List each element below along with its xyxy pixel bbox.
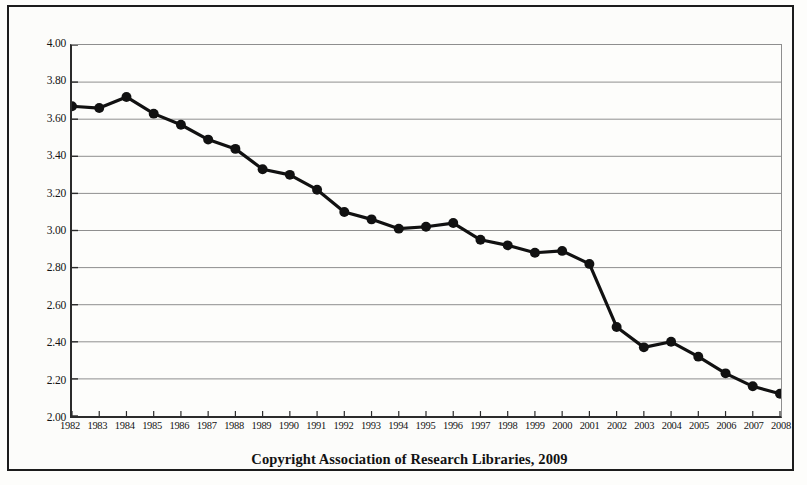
y-axis-tick-label: 2.80 (22, 263, 66, 275)
y-axis-tick-label: 4.00 (22, 38, 66, 50)
x-axis-tick-label: 1989 (252, 421, 272, 432)
x-axis-tick-label: 1982 (60, 421, 80, 432)
x-axis-tick-label: 2004 (662, 421, 682, 432)
y-axis-tick-label: 3.80 (22, 76, 66, 88)
data-point (312, 185, 322, 195)
data-point (367, 214, 377, 224)
data-point (693, 352, 703, 362)
plot-wrapper: 4.003.803.603.403.203.002.802.602.402.20… (21, 17, 798, 437)
data-point (584, 259, 594, 269)
data-point (230, 144, 240, 154)
x-axis-tick-label: 1984 (115, 421, 135, 432)
data-point (612, 322, 622, 332)
x-axis-tick-label: 1994 (388, 421, 408, 432)
plot-area (70, 44, 782, 418)
x-axis-tick-label: 1995 (416, 421, 436, 432)
x-axis-tick-label: 1983 (87, 421, 107, 432)
figure-container: 4.003.803.603.403.203.002.802.602.402.20… (0, 0, 807, 485)
x-axis-tick-label: 1993 (361, 421, 381, 432)
data-point (503, 240, 513, 250)
y-axis-tick-label: 2.60 (22, 300, 66, 312)
data-point (203, 135, 213, 145)
y-axis-tick-label: 2.40 (22, 337, 66, 349)
chart-caption: Copyright Association of Research Librar… (21, 451, 798, 468)
y-axis-tick-label: 3.20 (22, 188, 66, 200)
data-point (775, 389, 781, 399)
x-axis-tick-label: 2002 (607, 421, 627, 432)
data-point (421, 222, 431, 232)
y-axis-tick-labels: 4.003.803.603.403.203.002.802.602.402.20… (21, 44, 66, 418)
x-axis-tick-label: 1991 (306, 421, 326, 432)
x-axis-tick-label: 2006 (716, 421, 736, 432)
data-point (475, 235, 485, 245)
data-point (94, 103, 104, 113)
data-point (721, 368, 731, 378)
x-axis-tick-label: 2008 (771, 421, 791, 432)
y-axis-tick-label: 3.40 (22, 150, 66, 162)
x-axis-tick-label: 2007 (744, 421, 764, 432)
x-axis-tick-marks (72, 411, 780, 416)
x-axis-tick-label: 2001 (580, 421, 600, 432)
y-axis-tick-label: 3.60 (22, 113, 66, 125)
data-line (72, 97, 780, 394)
data-point (149, 109, 159, 119)
data-point (258, 164, 268, 174)
x-axis-tick-label: 1988 (224, 421, 244, 432)
x-axis-tick-label: 1997 (470, 421, 490, 432)
y-axis-tick-label: 3.00 (22, 225, 66, 237)
x-axis-tick-label: 1998 (498, 421, 518, 432)
data-point (176, 120, 186, 130)
data-point (666, 337, 676, 347)
data-point (72, 101, 77, 111)
data-point (339, 207, 349, 217)
data-point (285, 170, 295, 180)
data-point (394, 224, 404, 234)
data-point (557, 246, 567, 256)
data-point (448, 218, 458, 228)
x-axis-tick-label: 1985 (142, 421, 162, 432)
data-point-markers (72, 92, 781, 399)
data-point (748, 381, 758, 391)
x-axis-tick-label: 1999 (525, 421, 545, 432)
x-axis-tick-label: 1986 (169, 421, 189, 432)
y-axis-tick-label: 2.20 (22, 375, 66, 387)
x-axis-tick-labels: 1982198319841985198619871988198919901991… (70, 421, 782, 439)
x-axis-tick-label: 2005 (689, 421, 709, 432)
data-point (639, 342, 649, 352)
data-point (121, 92, 131, 102)
x-axis-tick-label: 1996 (443, 421, 463, 432)
x-axis-tick-label: 2003 (634, 421, 654, 432)
line-chart-svg (72, 45, 781, 416)
x-axis-tick-label: 1992 (334, 421, 354, 432)
page-border: 4.003.803.603.403.203.002.802.602.402.20… (7, 5, 794, 471)
x-axis-tick-label: 1987 (197, 421, 217, 432)
x-axis-tick-label: 2000 (552, 421, 572, 432)
data-point (530, 248, 540, 258)
chart-frame: 4.003.803.603.403.203.002.802.602.402.20… (21, 17, 798, 437)
x-axis-tick-label: 1990 (279, 421, 299, 432)
